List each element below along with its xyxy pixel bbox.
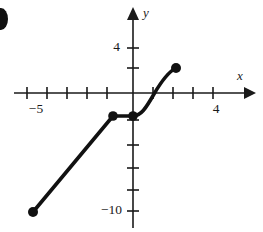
x-tick-label-4: 4 (213, 101, 220, 116)
coordinate-plane-svg: −5 4 x 4 −10 y (0, 0, 263, 232)
page-bullet-mark (0, 8, 8, 30)
function-graph (28, 63, 181, 217)
graph-figure: −5 4 x 4 −10 y (0, 0, 263, 232)
x-axis-group: −5 4 x (14, 68, 256, 116)
y-tick-label--10: −10 (101, 202, 122, 217)
origin-point-dot (128, 111, 138, 121)
y-axis-label: y (141, 5, 149, 20)
x-axis-arrowhead (244, 87, 256, 99)
x-axis-label: x (236, 68, 243, 83)
right-endpoint-dot (171, 63, 181, 73)
y-tick-label-4: 4 (113, 39, 120, 54)
y-axis-arrowhead (127, 7, 139, 20)
corner-point-dot (108, 111, 118, 121)
left-endpoint-dot (28, 207, 38, 217)
x-tick-label--5: −5 (29, 101, 44, 116)
piecewise-function-path (33, 68, 176, 212)
